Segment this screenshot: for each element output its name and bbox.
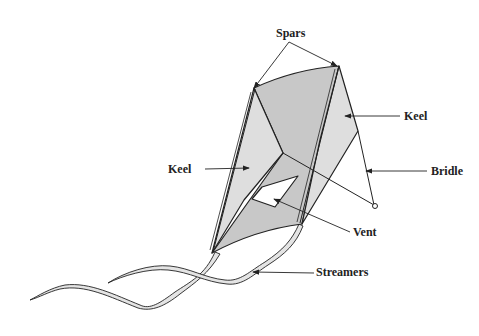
kite-diagram — [0, 0, 479, 336]
label-vent: Vent — [353, 225, 377, 239]
streamers — [30, 224, 303, 309]
label-streamers: Streamers — [316, 265, 368, 279]
label-bridle: Bridle — [431, 164, 463, 178]
label-keel-right: Keel — [404, 109, 427, 123]
bridle-ring — [373, 204, 378, 209]
label-keel-left: Keel — [168, 162, 191, 176]
label-spars: Spars — [276, 26, 305, 40]
kite-sail — [210, 66, 358, 253]
